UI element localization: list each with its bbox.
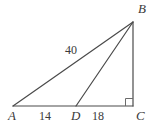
segment-ab	[13, 22, 133, 106]
geometry-figure: A B C D 40 14 18	[0, 0, 157, 128]
vertex-label-c: C	[136, 109, 145, 122]
segment-length-dc: 18	[92, 110, 104, 122]
segment-length-ad: 14	[39, 110, 51, 122]
vertex-label-b: B	[138, 2, 146, 15]
segment-length-ab: 40	[65, 44, 77, 56]
vertex-label-d: D	[71, 109, 80, 122]
vertex-label-a: A	[8, 109, 16, 122]
segment-db	[76, 22, 133, 106]
right-angle-marker-icon	[126, 99, 134, 107]
